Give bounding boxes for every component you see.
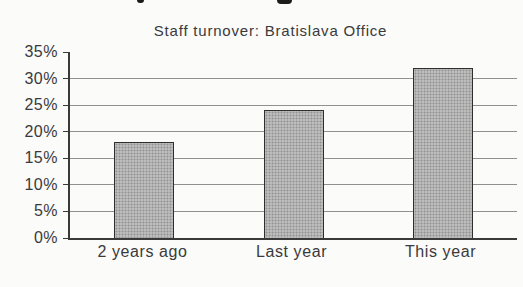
y-tick-5 <box>63 211 68 212</box>
plot-area <box>68 52 517 240</box>
cropped-heading-fragment-right <box>277 0 292 4</box>
y-axis-labels: 0%5%10%15%20%25%30%35% <box>0 52 60 238</box>
x-axis-labels: 2 years agoLast yearThis year <box>68 243 515 263</box>
y-tick-20 <box>63 131 68 132</box>
bar-this-year <box>413 68 473 238</box>
y-tick-35 <box>63 52 68 53</box>
y-tick-label-15: 15% <box>24 150 58 166</box>
y-tick-15 <box>63 158 68 159</box>
y-tick-10 <box>63 184 68 185</box>
cropped-heading-fragment-left <box>137 0 144 3</box>
y-tick-label-5: 5% <box>34 203 58 219</box>
y-tick-label-25: 25% <box>24 97 58 113</box>
y-tick-label-35: 35% <box>24 44 58 60</box>
chart-title: Staff turnover: Bratislava Office <box>0 21 523 40</box>
y-tick-25 <box>63 105 68 106</box>
y-tick-0 <box>63 238 68 239</box>
bar-2-years-ago <box>114 142 174 238</box>
y-tick-label-30: 30% <box>24 71 58 87</box>
y-tick-label-0: 0% <box>34 230 58 246</box>
x-tick-label-last-year: Last year <box>256 243 327 261</box>
x-tick-label-2-years-ago: 2 years ago <box>97 243 187 261</box>
y-tick-label-20: 20% <box>24 124 58 140</box>
x-tick-label-this-year: This year <box>405 243 476 261</box>
y-tick-30 <box>63 78 68 79</box>
bar-chart: Staff turnover: Bratislava Office 0%5%10… <box>0 0 523 287</box>
bar-last-year <box>264 110 324 238</box>
y-tick-label-10: 10% <box>24 177 58 193</box>
